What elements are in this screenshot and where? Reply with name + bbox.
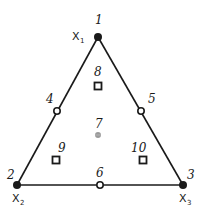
label-point-5: 5 bbox=[148, 92, 156, 106]
vertex-3-marker bbox=[179, 181, 187, 189]
point-5-marker bbox=[138, 108, 144, 114]
point-6-marker bbox=[97, 182, 103, 188]
point-9-marker bbox=[53, 157, 60, 164]
label-x2: X 2 bbox=[12, 192, 24, 207]
ternary-diagram: 1 2 3 4 5 6 7 8 9 10 X 1 X 2 X 3 bbox=[0, 0, 204, 214]
svg-text:1: 1 bbox=[80, 37, 84, 45]
triangle-edges bbox=[17, 37, 183, 185]
label-point-9: 9 bbox=[58, 141, 66, 155]
point-4-marker bbox=[54, 108, 60, 114]
svg-text:X: X bbox=[72, 30, 80, 43]
label-point-1: 1 bbox=[95, 13, 103, 27]
label-point-4: 4 bbox=[45, 92, 54, 106]
vertex-1-marker bbox=[94, 33, 102, 41]
svg-text:2: 2 bbox=[20, 199, 24, 207]
vertex-2-marker bbox=[13, 181, 21, 189]
label-point-2: 2 bbox=[6, 168, 15, 182]
svg-text:3: 3 bbox=[187, 199, 191, 207]
point-7-marker bbox=[95, 132, 101, 138]
svg-text:X: X bbox=[179, 192, 187, 205]
label-point-6: 6 bbox=[96, 166, 104, 180]
label-point-3: 3 bbox=[187, 168, 195, 182]
label-point-10: 10 bbox=[131, 141, 147, 155]
label-point-8: 8 bbox=[94, 65, 102, 79]
label-x3: X 3 bbox=[179, 192, 191, 207]
point-8-marker bbox=[95, 83, 102, 90]
svg-text:X: X bbox=[12, 192, 20, 205]
label-x1: X 1 bbox=[72, 30, 84, 45]
point-10-marker bbox=[140, 157, 147, 164]
label-point-7: 7 bbox=[95, 117, 103, 131]
